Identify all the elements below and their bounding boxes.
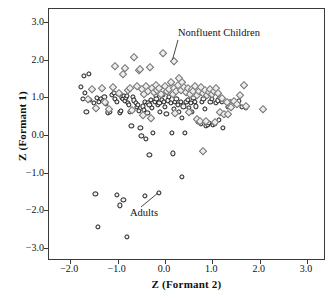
data-point-adults	[158, 109, 163, 114]
data-point-adults	[179, 115, 184, 120]
data-point-nonfluent-children	[258, 105, 266, 113]
x-axis-tick-labels: −2.0−1.00.01.02.03.0	[48, 263, 325, 277]
x-tick-label: 2.0	[252, 263, 265, 274]
data-point-adults	[125, 234, 130, 239]
data-point-nonfluent-children	[146, 62, 154, 70]
data-point-adults	[202, 106, 207, 111]
data-point-adults	[194, 104, 199, 109]
annotation-adults: Adults	[130, 207, 158, 218]
data-point-adults	[129, 123, 134, 128]
data-point-nonfluent-children	[111, 62, 119, 70]
y-tick-label: 3.0	[32, 16, 45, 27]
data-point-nonfluent-children	[224, 110, 232, 118]
y-tick-label: −2.0	[26, 204, 44, 215]
x-tick-label: −2.0	[60, 263, 78, 274]
data-point-adults	[170, 130, 175, 135]
data-point-nonfluent-children	[159, 49, 167, 57]
data-point-adults	[164, 111, 169, 116]
data-point-nonfluent-children	[199, 147, 207, 155]
x-tick-label: −1.0	[108, 263, 126, 274]
data-point-adults	[117, 203, 122, 208]
x-tick-label: 0.0	[158, 263, 171, 274]
data-point-adults	[143, 193, 148, 198]
data-point-adults	[143, 137, 148, 142]
y-axis-tick-labels: −3.0−2.0−1.00.01.02.03.0	[0, 8, 44, 260]
data-point-nonfluent-children	[147, 114, 155, 122]
y-tick-mark	[44, 97, 49, 98]
data-point-nonfluent-children	[92, 104, 100, 112]
y-tick-label: 2.0	[32, 53, 45, 64]
y-tick-label: 0.0	[32, 129, 45, 140]
y-tick-mark	[44, 173, 49, 174]
data-point-nonfluent-children	[242, 102, 250, 110]
y-tick-mark	[44, 135, 49, 136]
y-tick-mark	[44, 210, 49, 211]
plot-area	[49, 9, 324, 259]
data-point-adults	[170, 151, 175, 156]
data-point-nonfluent-children	[88, 85, 96, 93]
data-point-nonfluent-children	[130, 53, 138, 61]
data-point-adults	[114, 99, 119, 104]
data-point-adults	[151, 131, 156, 136]
data-point-nonfluent-children	[109, 83, 117, 91]
data-point-adults	[118, 109, 123, 114]
annotation-nonfluent-children: Nonfluent Children	[178, 27, 260, 38]
data-point-adults	[182, 131, 187, 136]
data-point-adults	[121, 197, 126, 202]
data-point-nonfluent-children	[98, 84, 106, 92]
data-point-adults	[81, 73, 86, 78]
data-point-adults	[114, 193, 119, 198]
data-point-adults	[84, 109, 89, 114]
data-point-adults	[179, 175, 184, 180]
y-tick-label: −1.0	[26, 166, 44, 177]
data-point-adults	[87, 71, 92, 76]
data-point-adults	[221, 125, 226, 130]
y-tick-mark	[44, 60, 49, 61]
data-point-adults	[138, 126, 143, 131]
plot-frame	[48, 8, 325, 260]
data-point-adults	[93, 191, 98, 196]
data-point-nonfluent-children	[169, 56, 177, 64]
x-tick-label: 1.0	[205, 263, 218, 274]
y-tick-mark	[44, 22, 49, 23]
scatter-plot-figure: Z (Formant 1) −3.0−2.0−1.00.01.02.03.0 −…	[0, 0, 336, 299]
x-tick-label: 3.0	[300, 263, 313, 274]
data-point-adults	[149, 106, 154, 111]
data-point-adults	[162, 104, 167, 109]
data-point-adults	[181, 104, 186, 109]
data-point-adults	[78, 85, 83, 90]
data-point-adults	[95, 225, 100, 230]
y-tick-mark	[44, 248, 49, 249]
data-point-adults	[147, 153, 152, 158]
y-tick-label: 1.0	[32, 91, 45, 102]
y-tick-label: −3.0	[26, 241, 44, 252]
data-point-adults	[156, 190, 161, 195]
x-axis-title: Z (Formant 2)	[48, 278, 325, 290]
data-point-nonfluent-children	[240, 81, 248, 89]
data-point-adults	[125, 94, 130, 99]
